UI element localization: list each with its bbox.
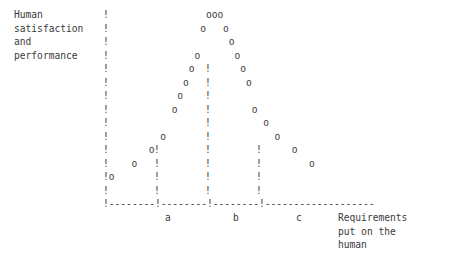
data-point: o [177,89,183,103]
data-point: o [240,62,246,76]
data-point: o [195,49,201,63]
data-point: o [246,76,252,90]
y-axis-caption-line-1: Human [14,8,83,22]
x-axis-caption-line-2: put on the [338,225,407,239]
data-point: o [309,157,315,171]
gridline-a: ! ! ! ! [154,143,160,197]
gridline-c: ! ! ! ! [256,143,262,197]
x-axis-caption: Requirementsput on thehuman [338,211,407,252]
xtick-label-a: a [165,211,171,225]
y-axis-caption-line-4: performance [14,49,83,63]
data-point: o [275,130,281,144]
data-point: o [252,103,258,117]
gridline-b: ! ! ! ! ! ! ! ! ! ! [205,62,211,197]
data-point: o [172,103,178,117]
y-axis-caption: Humansatisfactionandperformance [14,8,83,62]
data-point: o [160,130,166,144]
data-point: o [149,143,155,157]
y-axis-line: ! ! ! ! ! ! ! ! ! ! ! ! ! ! [103,8,109,197]
data-point: o [263,116,269,130]
xtick-label-c: c [296,211,302,225]
data-point: o [292,143,298,157]
data-point: o [235,49,241,63]
ascii-chart-figure: Humansatisfactionandperformance ! ! ! ! … [0,0,449,267]
y-axis-caption-line-3: and [14,35,83,49]
x-axis-line: !--------!--------!--------!------------… [103,197,374,211]
data-point: o [217,8,223,22]
x-axis-caption-line-1: Requirements [338,211,407,225]
data-point: o [229,35,235,49]
data-point: o [223,22,229,36]
x-axis-caption-line-3: human [338,238,407,252]
data-point: o [189,62,195,76]
data-point: o [109,170,115,184]
data-point: o [132,157,138,171]
y-axis-caption-line-2: satisfaction [14,22,83,36]
data-point: o [200,22,206,36]
xtick-label-b: b [233,211,239,225]
data-point: o [183,76,189,90]
